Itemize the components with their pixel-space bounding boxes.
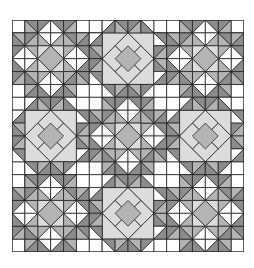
quilt-patch	[12, 175, 25, 188]
quilt-patch	[154, 175, 167, 188]
quilt-patch	[231, 175, 244, 188]
quilt-patch	[89, 239, 102, 252]
quilt-patch	[154, 162, 167, 175]
quilt-patch	[154, 20, 167, 33]
quilt-patch	[154, 239, 167, 252]
quilt-patch	[12, 84, 25, 97]
quilt-patch	[231, 84, 244, 97]
quilt-patch	[167, 175, 180, 188]
quilt-svg	[12, 20, 244, 252]
quilt-patch	[76, 162, 89, 175]
quilt-patch	[231, 20, 244, 33]
quilt-patch	[231, 239, 244, 252]
quilt-pattern	[12, 20, 244, 252]
quilt-patch	[76, 84, 89, 97]
quilt-patch	[154, 84, 167, 97]
quilt-patch	[89, 162, 102, 175]
quilt-patch	[76, 97, 89, 110]
quilt-patch	[167, 20, 180, 33]
quilt-patch	[12, 239, 25, 252]
quilt-patch	[231, 97, 244, 110]
quilt-patch	[167, 239, 180, 252]
quilt-patch	[89, 20, 102, 33]
quilt-patch	[76, 239, 89, 252]
quilt-patch	[167, 84, 180, 97]
quilt-patch	[231, 162, 244, 175]
quilt-patch	[12, 97, 25, 110]
quilt-patch	[154, 97, 167, 110]
quilt-patch	[76, 20, 89, 33]
quilt-patch	[89, 175, 102, 188]
quilt-patch	[89, 97, 102, 110]
quilt-patch	[89, 84, 102, 97]
quilt-patch	[12, 162, 25, 175]
quilt-patch	[167, 162, 180, 175]
quilt-patch	[76, 175, 89, 188]
quilt-patch	[167, 97, 180, 110]
quilt-patch	[12, 20, 25, 33]
